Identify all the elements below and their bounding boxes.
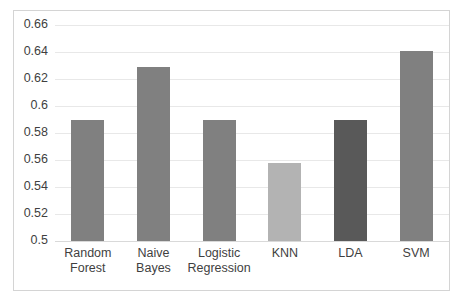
x-axis-label-line: Forest [55, 261, 121, 276]
x-axis-category-label: Naive Bayes [121, 246, 187, 276]
y-axis-tick-label: 0.6 [0, 99, 48, 112]
x-axis-label-line: SVM [383, 246, 449, 261]
x-axis-category-label: LDA [318, 246, 384, 261]
y-axis-tick-label: 0.56 [0, 153, 48, 166]
bar [334, 120, 367, 242]
bar [137, 67, 170, 241]
bar [268, 163, 301, 241]
bar [203, 120, 236, 242]
y-axis-tick-labels: 0.50.520.540.560.580.60.620.640.66 [0, 0, 50, 302]
x-axis-label-line: Naive Bayes [121, 246, 187, 276]
x-axis-label-line: Regression [186, 261, 252, 276]
x-axis-category-labels: RandomForestNaive BayesLogisticRegressio… [55, 246, 449, 296]
bar-chart: 0.50.520.540.560.580.60.620.640.66 Rando… [0, 0, 461, 302]
x-axis-label-line: Logistic [186, 246, 252, 261]
y-axis-tick-label: 0.52 [0, 207, 48, 220]
y-axis-tick-label: 0.62 [0, 72, 48, 85]
y-axis-tick-label: 0.58 [0, 126, 48, 139]
x-axis-category-label: LogisticRegression [186, 246, 252, 276]
y-axis-tick-label: 0.64 [0, 45, 48, 58]
x-axis-label-line: Random [55, 246, 121, 261]
x-axis-label-line: KNN [252, 246, 318, 261]
x-axis-category-label: RandomForest [55, 246, 121, 276]
y-axis-tick-label: 0.5 [0, 234, 48, 247]
bars-layer [55, 25, 449, 241]
x-axis-label-line: LDA [318, 246, 384, 261]
bar [71, 120, 104, 242]
x-axis-category-label: SVM [383, 246, 449, 261]
gridline [55, 241, 449, 242]
y-axis-tick-label: 0.54 [0, 180, 48, 193]
bar [400, 51, 433, 241]
x-axis-category-label: KNN [252, 246, 318, 261]
y-axis-tick-label: 0.66 [0, 18, 48, 31]
